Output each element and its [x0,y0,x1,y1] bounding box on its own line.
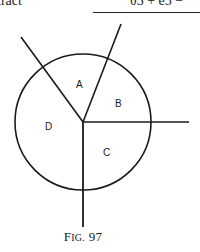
caption-number: 97 [89,229,103,244]
figure-97-diagram: A B C D [0,0,200,252]
caption-prefix-smallcaps: IG. [71,232,85,243]
region-label-c: C [103,147,110,158]
region-label-b: B [115,98,122,109]
figure-caption: FIG. 97 [0,229,166,245]
region-label-d: D [45,121,52,132]
region-label-a: A [76,79,83,90]
